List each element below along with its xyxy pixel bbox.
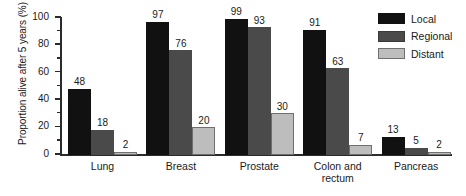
chart-legend: LocalRegionalDistant <box>378 11 452 64</box>
bar-value-label: 7 <box>349 133 372 143</box>
bar-value-label: 76 <box>169 39 192 49</box>
y-tick-major: 20 <box>55 126 61 128</box>
y-tick-major: 0 <box>55 153 61 155</box>
legend-swatch-icon <box>378 31 405 42</box>
bar-local-lung <box>68 89 91 155</box>
legend-item-regional: Regional <box>378 29 452 44</box>
legend-label: Regional <box>411 30 452 42</box>
bar-value-label: 99 <box>225 7 248 17</box>
bar-value-label: 91 <box>303 18 326 28</box>
y-tick-label: 0 <box>43 149 49 159</box>
category-label: Pancreas <box>368 161 465 173</box>
bar-local-colon-and-rectum <box>303 30 326 155</box>
bar-value-label: 2 <box>114 140 137 150</box>
y-tick-major: 80 <box>55 43 61 45</box>
y-tick-major: 40 <box>55 98 61 100</box>
bar-distant-pancreas <box>428 152 451 155</box>
legend-label: Distant <box>411 48 444 60</box>
legend-swatch-icon <box>378 48 405 59</box>
bar-value-label: 2 <box>428 140 451 150</box>
bar-local-pancreas <box>382 137 405 155</box>
legend-item-distant: Distant <box>378 46 452 61</box>
y-tick-label: 80 <box>38 39 49 49</box>
bar-local-breast <box>146 22 169 155</box>
y-tick-label: 100 <box>32 12 49 22</box>
y-tick-minor <box>57 57 61 59</box>
legend-label: Local <box>411 13 436 25</box>
bar-distant-lung <box>114 152 137 155</box>
bar-regional-pancreas <box>405 148 428 155</box>
y-axis-line <box>60 17 62 155</box>
y-tick-minor <box>57 85 61 87</box>
y-tick-label: 60 <box>38 67 49 77</box>
bar-value-label: 97 <box>146 10 169 20</box>
y-tick-major: 60 <box>55 71 61 73</box>
y-tick-minor <box>57 30 61 32</box>
bar-value-label: 63 <box>326 57 349 67</box>
legend-swatch-icon <box>378 13 405 24</box>
bar-value-label: 13 <box>382 125 405 135</box>
bar-regional-prostate <box>248 27 271 154</box>
bar-value-label: 93 <box>248 16 271 26</box>
survival-bar-chart: Proportion alive after 5 years (%) 02040… <box>0 0 466 196</box>
bar-distant-prostate <box>271 113 294 154</box>
y-tick-minor <box>57 112 61 114</box>
bar-local-prostate <box>225 19 248 155</box>
bar-value-label: 18 <box>91 118 114 128</box>
y-tick-label: 40 <box>38 94 49 104</box>
bar-value-label: 48 <box>68 77 91 87</box>
y-tick-label: 20 <box>38 121 49 131</box>
bar-regional-colon-and-rectum <box>326 68 349 154</box>
bar-regional-lung <box>91 130 114 155</box>
bar-value-label: 30 <box>271 102 294 112</box>
bar-distant-breast <box>192 127 215 154</box>
y-tick-major: 100 <box>55 16 61 18</box>
bar-distant-colon-and-rectum <box>349 145 372 155</box>
bar-value-label: 20 <box>192 116 215 126</box>
bar-regional-breast <box>169 50 192 154</box>
bar-value-label: 5 <box>405 136 428 146</box>
legend-item-local: Local <box>378 11 452 26</box>
y-axis-title: Proportion alive after 5 years (%) <box>17 0 28 154</box>
y-tick-minor <box>57 139 61 141</box>
